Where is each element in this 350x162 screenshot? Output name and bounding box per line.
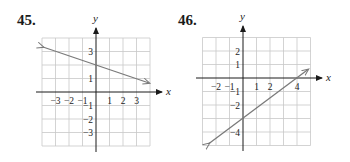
x-tick-labels: −3 −2 −1 1 2 3 [50, 96, 139, 106]
graph-45: x y −3 −2 −1 1 2 3 3 1 −1 −2 −3 [36, 12, 171, 152]
graph-46: x y −2 −1 1 2 4 2 1 −1 −2 −4 [196, 10, 331, 151]
svg-text:1: 1 [235, 60, 240, 70]
svg-text:3: 3 [88, 47, 93, 57]
svg-text:−4: −4 [230, 128, 240, 138]
svg-text:−2: −2 [83, 115, 93, 125]
svg-text:−2: −2 [211, 82, 221, 92]
svg-text:−1: −1 [230, 87, 240, 97]
svg-text:1: 1 [107, 96, 112, 106]
svg-text:2: 2 [268, 82, 273, 92]
y-axis-label: y [239, 10, 245, 22]
svg-text:2: 2 [235, 47, 240, 57]
x-axis-label: x [325, 71, 331, 83]
svg-text:1: 1 [88, 74, 93, 84]
x-tick-labels: −2 −1 1 2 4 [211, 82, 300, 92]
svg-text:−3: −3 [50, 96, 60, 106]
svg-text:−2: −2 [64, 96, 74, 106]
svg-text:−3: −3 [83, 128, 93, 138]
svg-text:−2: −2 [230, 101, 240, 111]
svg-text:4: 4 [295, 82, 300, 92]
x-axis-label: x [165, 85, 171, 97]
svg-text:3: 3 [134, 96, 139, 106]
svg-text:1: 1 [254, 82, 259, 92]
y-axis-label: y [92, 12, 98, 24]
graphs-canvas: x y −3 −2 −1 1 2 3 3 1 −1 −2 −3 [0, 0, 350, 162]
svg-text:−1: −1 [83, 101, 93, 111]
svg-text:2: 2 [121, 96, 126, 106]
